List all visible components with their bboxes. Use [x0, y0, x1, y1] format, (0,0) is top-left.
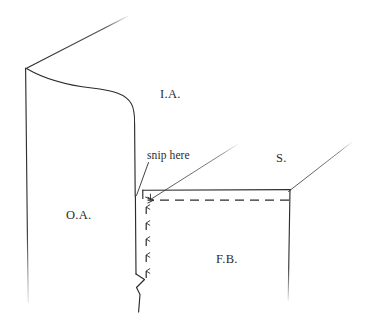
- corner-snip-drawing: [0, 0, 370, 335]
- label-inner-allowance: I.A.: [160, 88, 181, 101]
- snip-notch-jog: [136, 274, 145, 312]
- seam-allowance-guides: [146, 200, 289, 278]
- curved-fold-top: [27, 69, 135, 125]
- label-facing-band: F.B.: [216, 253, 238, 266]
- label-outer-allowance: O.A.: [66, 209, 92, 222]
- outer-allowance-left-edge: [26, 68, 29, 302]
- facing-band-panel: [143, 190, 290, 300]
- seam-leader: [289, 142, 353, 192]
- facing-band-right-edge: [288, 190, 290, 300]
- snip-notch-vertical: [135, 196, 136, 274]
- label-snip-here: snip here: [147, 150, 190, 162]
- outer-allowance-panel: [26, 16, 135, 302]
- figure-canvas: I.A. O.A. F.B. S. snip here: [0, 0, 370, 335]
- fold-cut-edge-group: [135, 124, 145, 312]
- fold-vertical-edge: [135, 124, 136, 196]
- top-diagonal-fold-edge: [27, 16, 128, 68]
- label-seam: S.: [276, 152, 287, 165]
